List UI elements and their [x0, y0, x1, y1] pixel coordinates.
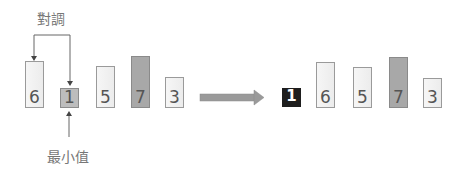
after-bar-4: 7 [389, 57, 408, 108]
bar-value: 7 [135, 89, 146, 106]
before-bar-1: 6 [25, 61, 44, 108]
bar-value: 3 [169, 89, 180, 106]
bar-value: 3 [427, 89, 438, 106]
before-bar-4: 7 [131, 56, 150, 108]
bar-value: 5 [100, 89, 111, 106]
transition-arrow-icon [254, 90, 264, 105]
after-bar-2: 6 [316, 62, 335, 108]
before-bar-5: 3 [165, 77, 184, 108]
swap-arrowhead-right-icon [67, 81, 73, 86]
after-bar-5: 3 [423, 78, 442, 108]
bar-value: 7 [393, 89, 404, 106]
after-bar-3: 5 [353, 67, 372, 108]
swap-label: 對調 [37, 8, 65, 28]
after-bar-1-sorted: 1 [282, 88, 301, 107]
min-pointer-arrowhead-icon [66, 111, 72, 116]
bar-value: 5 [357, 89, 368, 106]
bar-value: 1 [64, 89, 75, 106]
min-value-label: 最小值 [47, 146, 89, 166]
selection-sort-diagram: 對調 最小值 6 1 5 7 3 1 6 5 7 3 [0, 0, 460, 172]
bar-value: 1 [286, 89, 296, 104]
transition-arrow-shaft [200, 94, 255, 101]
bar-value: 6 [29, 89, 40, 106]
bar-value: 6 [320, 89, 331, 106]
before-bar-2-min: 1 [60, 88, 79, 108]
before-bar-3: 5 [96, 66, 115, 108]
